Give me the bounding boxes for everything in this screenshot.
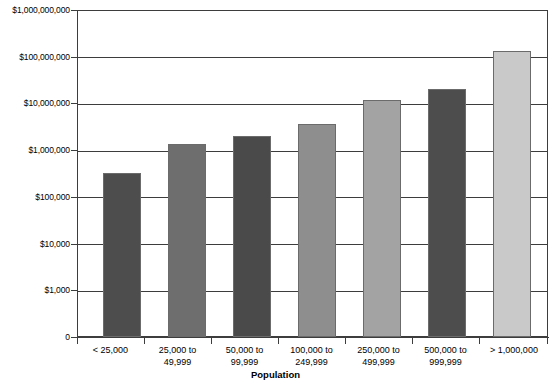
x-tick-mark-6 <box>479 338 480 344</box>
y-tick-label-1000000: $1,000,000 <box>2 146 70 155</box>
x-tick-mark-1 <box>144 338 145 344</box>
y-tick-label-1000: $1,000 <box>2 286 70 295</box>
y-tick-label-100000: $100,000 <box>2 193 70 202</box>
x-cat-label-25000-49999: 25,000 to 49,999 <box>144 345 211 368</box>
x-cat-label-50000-99999: 50,000 to 99,999 <box>211 345 278 368</box>
y-tick-label-10000: $10,000 <box>2 240 70 249</box>
x-tick-mark-3 <box>278 338 279 344</box>
x-cat-label-gt-1000000: > 1,000,000 <box>479 345 549 357</box>
bar-250000-499999[interactable] <box>363 100 401 337</box>
y-tick-label-1000000000: $1,000,000,000 <box>2 6 70 15</box>
bar-chart: $1,000,000,000 $100,000,000 $10,000,000 … <box>0 0 551 385</box>
y-tick-label-0: 0 <box>2 333 70 342</box>
x-tick-mark-4 <box>345 338 346 344</box>
x-cat-label-250000-499999: 250,000 to 499,999 <box>345 345 412 368</box>
x-cat-label-lt-25000: < 25,000 <box>77 345 144 357</box>
bar-lt-25000[interactable] <box>103 173 141 337</box>
x-tick-mark-5 <box>412 338 413 344</box>
bar-50000-99999[interactable] <box>233 136 271 337</box>
y-tick-label-10000000: $10,000,000 <box>2 99 70 108</box>
x-cat-label-500000-999999: 500,000 to 999,999 <box>412 345 479 368</box>
y-axis-label-group: $1,000,000,000 $100,000,000 $10,000,000 … <box>0 0 70 385</box>
bar-100000-249999[interactable] <box>298 124 336 337</box>
bar-500000-999999[interactable] <box>428 89 466 337</box>
x-tick-mark-7 <box>547 338 548 344</box>
bar-gt-1000000[interactable] <box>493 51 531 337</box>
x-axis-title: Population <box>0 369 551 380</box>
x-tick-mark-0 <box>77 338 78 344</box>
x-cat-label-100000-249999: 100,000 to 249,999 <box>278 345 345 368</box>
y-tick-label-100000000: $100,000,000 <box>2 53 70 62</box>
x-axis-label-group: < 25,000 25,000 to 49,999 50,000 to 99,9… <box>77 345 549 371</box>
x-tick-mark-2 <box>211 338 212 344</box>
bars-layer <box>77 10 548 337</box>
bar-25000-49999[interactable] <box>168 144 206 337</box>
